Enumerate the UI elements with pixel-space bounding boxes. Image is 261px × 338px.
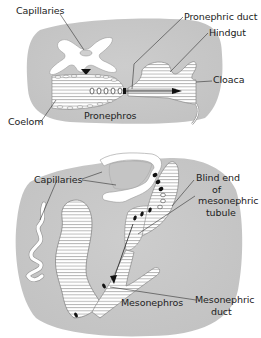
label-capillaries-top: Capillaries (16, 5, 64, 16)
duct-origin-marker (123, 88, 126, 94)
label-mesonephros: Mesonephros (121, 297, 183, 308)
label-pronephros: Pronephros (84, 110, 136, 121)
label-mesonephric-duct-line2: duct (211, 306, 232, 317)
label-blind-end-line3: mesonephric (198, 195, 258, 206)
label-coelom: Coelom (8, 116, 43, 127)
label-mesonephric-duct-line1: Mesonephric (195, 294, 254, 305)
top-capillary-center (80, 50, 92, 56)
label-cloaca: Cloaca (213, 74, 244, 85)
label-blind-end-line2: of (212, 184, 221, 195)
label-blind-end-line4: tubule (206, 207, 236, 218)
label-blind-end-line1: Blind end (196, 172, 240, 183)
label-pronephric-duct: Pronephric duct (184, 11, 257, 22)
label-capillaries-bottom: Capillaries (34, 174, 82, 185)
pronephros-panel (27, 14, 223, 124)
embryonic-kidney-diagram (0, 0, 261, 338)
label-hindgut: Hindgut (209, 27, 246, 38)
